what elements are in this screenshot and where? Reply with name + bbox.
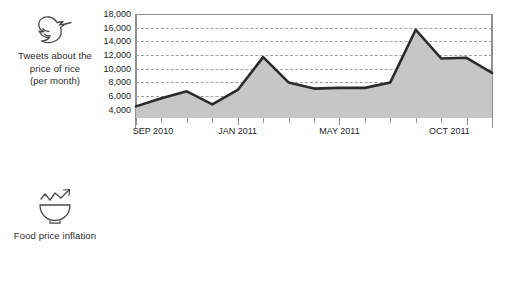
x-tick bbox=[441, 118, 442, 123]
x-tick bbox=[390, 118, 391, 123]
x-tick-label: JAN 2011 bbox=[218, 126, 257, 136]
y-tick-label: 10,000 bbox=[103, 64, 131, 74]
series-tweets bbox=[136, 14, 492, 118]
plot-area-tweets: 4,0006,0008,00010,00012,00014,00016,0001… bbox=[136, 14, 492, 118]
y-tick-label: 6,000 bbox=[108, 91, 131, 101]
legend-tweets-line-1: Tweets about the bbox=[0, 50, 110, 63]
x-tick bbox=[161, 118, 162, 123]
legend-inflation: Food price inflation bbox=[0, 186, 110, 243]
x-tick-label: OCT 2011 bbox=[429, 126, 470, 136]
y-tick-label: 14,000 bbox=[103, 36, 131, 46]
plot-right-edge-tweets bbox=[492, 14, 493, 128]
x-tick bbox=[212, 118, 213, 123]
y-tick-label: 8,000 bbox=[108, 77, 131, 87]
x-tick bbox=[339, 118, 340, 125]
legend-inflation-line-1: Food price inflation bbox=[0, 230, 110, 243]
y-tick-label: 18,000 bbox=[103, 9, 131, 19]
panel-tweets: Tweets about the price of rice (per mont… bbox=[0, 0, 519, 158]
y-tick-label: 4,000 bbox=[108, 105, 131, 115]
y-tick-label: 16,000 bbox=[103, 23, 131, 33]
panel-inflation: Food price inflation 3210–1–2–3 SEP 2010… bbox=[0, 158, 519, 308]
legend-tweets-line-2: price of rice bbox=[0, 63, 110, 76]
x-tick bbox=[187, 118, 188, 123]
x-tick bbox=[136, 118, 137, 125]
x-tick-label: MAY 2011 bbox=[319, 126, 360, 136]
area-fill bbox=[136, 30, 492, 118]
twitter-bird-icon bbox=[29, 12, 81, 46]
x-tick bbox=[467, 118, 468, 125]
legend-tweets-line-3: (per month) bbox=[0, 75, 110, 88]
x-tick bbox=[263, 118, 264, 123]
x-tick bbox=[416, 118, 417, 123]
chart-page: Tweets about the price of rice (per mont… bbox=[0, 0, 519, 308]
legend-inflation-caption: Food price inflation bbox=[0, 230, 110, 243]
x-tick bbox=[492, 118, 493, 123]
x-tick bbox=[365, 118, 366, 123]
rice-bowl-trend-icon bbox=[29, 186, 81, 226]
x-tick bbox=[289, 118, 290, 123]
legend-tweets-caption: Tweets about the price of rice (per mont… bbox=[0, 50, 110, 88]
y-tick-label: 12,000 bbox=[103, 50, 131, 60]
x-tick bbox=[314, 118, 315, 123]
x-tick-label: SEP 2010 bbox=[133, 126, 173, 136]
legend-tweets: Tweets about the price of rice (per mont… bbox=[0, 12, 110, 88]
x-tick bbox=[238, 118, 239, 125]
